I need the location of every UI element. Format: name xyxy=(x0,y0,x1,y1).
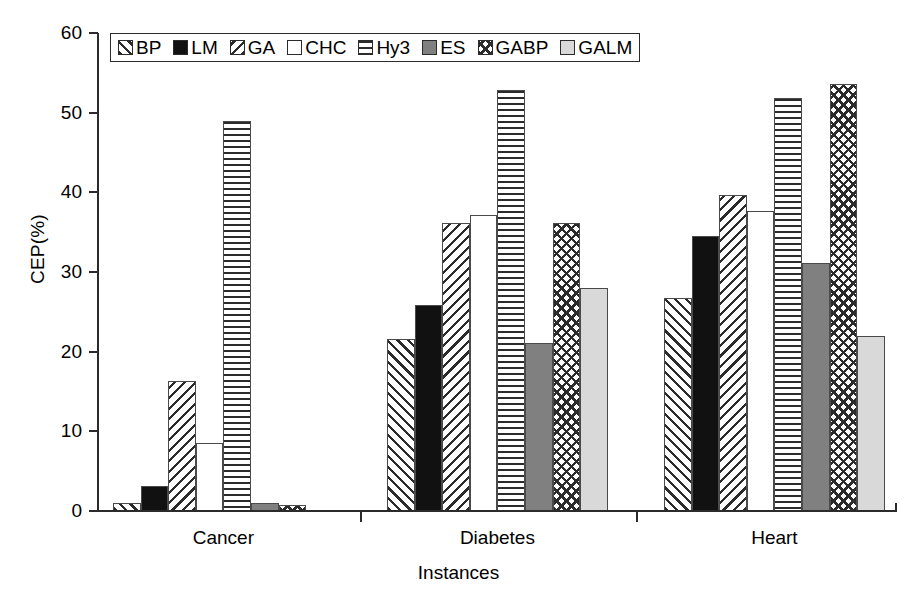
legend-item-label: GA xyxy=(248,38,275,57)
y-axis-tick-label: 20 xyxy=(30,342,82,361)
bar xyxy=(802,263,830,511)
legend-swatch-icon xyxy=(478,40,493,55)
bar xyxy=(664,298,692,511)
legend-item-label: LM xyxy=(191,38,217,57)
legend-item: CHC xyxy=(287,38,346,57)
legend-swatch-icon xyxy=(560,40,575,55)
y-axis-tick-label: 50 xyxy=(30,103,82,122)
legend-item-label: GALM xyxy=(578,38,632,57)
y-axis-tick-label: 10 xyxy=(30,421,82,440)
y-axis-tick-label-wrap: 50 xyxy=(30,103,82,122)
bar xyxy=(692,236,720,511)
legend-item: BP xyxy=(118,38,161,57)
y-axis-tick-label: 60 xyxy=(30,23,82,42)
legend-item-label: ES xyxy=(440,38,465,57)
legend-item: GA xyxy=(230,38,275,57)
x-axis-group-separator-tick xyxy=(636,512,638,522)
y-axis-tick-label-wrap: 30 xyxy=(30,262,82,281)
legend-item: ES xyxy=(422,38,465,57)
legend-item-label: GABP xyxy=(496,38,549,57)
x-axis-category-label: Diabetes xyxy=(427,527,567,549)
legend-swatch-icon xyxy=(287,40,302,55)
x-axis-end-tick xyxy=(895,503,897,512)
bar xyxy=(387,339,415,511)
y-axis-title: CEP(%) xyxy=(27,189,49,309)
legend-item-label: CHC xyxy=(305,38,346,57)
y-axis-tick xyxy=(89,430,98,432)
bar xyxy=(470,215,498,511)
bar xyxy=(497,90,525,511)
legend-swatch-icon xyxy=(230,40,245,55)
bar xyxy=(830,84,858,511)
legend-swatch-icon xyxy=(173,40,188,55)
bar xyxy=(719,195,747,511)
bar xyxy=(525,343,553,511)
y-axis-tick-label-wrap: 20 xyxy=(30,342,82,361)
legend-item: GALM xyxy=(560,38,632,57)
y-axis-tick-label-wrap: 40 xyxy=(30,182,82,201)
legend: BPLMGACHCHy3ESGABPGALM xyxy=(110,33,640,62)
x-axis-category-label: Heart xyxy=(704,527,844,549)
y-axis-tick-label: 40 xyxy=(30,182,82,201)
bar xyxy=(415,305,443,511)
y-axis-tick xyxy=(89,351,98,353)
bar xyxy=(747,211,775,511)
x-axis-category-label: Cancer xyxy=(153,527,293,549)
bar xyxy=(196,443,224,512)
bar xyxy=(774,98,802,511)
bar xyxy=(580,288,608,511)
bar xyxy=(141,486,169,511)
plot-area xyxy=(98,33,896,511)
bar xyxy=(442,223,470,511)
legend-swatch-icon xyxy=(118,40,133,55)
legend-swatch-icon xyxy=(358,40,373,55)
legend-item: GABP xyxy=(478,38,549,57)
y-axis-tick-label-wrap: 0 xyxy=(30,501,82,520)
x-axis-start-tick xyxy=(97,503,99,512)
legend-item-label: Hy3 xyxy=(376,38,410,57)
bar xyxy=(857,336,885,511)
legend-swatch-icon xyxy=(422,40,437,55)
bar xyxy=(553,223,581,511)
legend-item-label: BP xyxy=(136,38,161,57)
y-axis-tick xyxy=(89,191,98,193)
y-axis-tick xyxy=(89,112,98,114)
legend-item: LM xyxy=(173,38,217,57)
y-axis-tick-label-wrap: 60 xyxy=(30,23,82,42)
legend-item: Hy3 xyxy=(358,38,410,57)
x-axis-title: Instances xyxy=(0,562,917,584)
y-axis-tick-label-wrap: 10 xyxy=(30,421,82,440)
y-axis-tick-label: 0 xyxy=(30,501,82,520)
bar xyxy=(223,121,251,511)
y-axis-tick-label: 30 xyxy=(30,262,82,281)
x-axis-line xyxy=(97,510,897,512)
bar-chart: CEP(%) 0102030405060 CancerDiabetesHeart… xyxy=(0,0,917,611)
x-axis-group-separator-tick xyxy=(360,512,362,522)
y-axis-tick xyxy=(89,32,98,34)
y-axis-tick xyxy=(89,271,98,273)
bar xyxy=(168,381,196,511)
